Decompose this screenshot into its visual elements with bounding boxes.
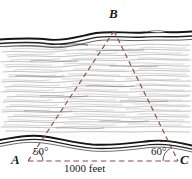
vertex-label-c: C (180, 153, 189, 166)
angle-label-c: 60° (151, 146, 166, 157)
baseline-length-label: 1000 feet (64, 163, 105, 174)
vertex-label-a: A (11, 153, 20, 166)
strata-triangulation-figure: B A C 50° 60° 1000 feet (0, 0, 192, 179)
angle-label-a: 50° (33, 146, 48, 157)
vertex-label-b: B (109, 7, 118, 20)
